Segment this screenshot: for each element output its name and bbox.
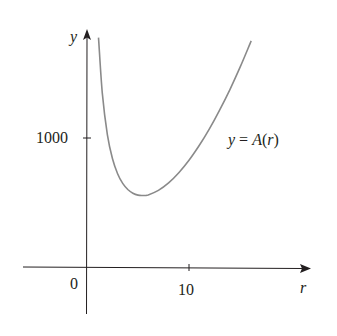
chart: y r 0 10 1000 y = A(r) — [0, 0, 337, 336]
x-axis — [23, 267, 303, 269]
curve-a-of-r — [99, 38, 252, 196]
y-axis — [87, 36, 88, 314]
y-axis-label: y — [68, 28, 78, 46]
x-axis-label: r — [300, 279, 307, 296]
origin-label: 0 — [70, 275, 78, 292]
x-tick-label-10: 10 — [178, 281, 194, 298]
function-label: y = A(r) — [226, 131, 279, 149]
axes — [23, 29, 311, 314]
y-tick-label-1000: 1000 — [36, 129, 68, 146]
